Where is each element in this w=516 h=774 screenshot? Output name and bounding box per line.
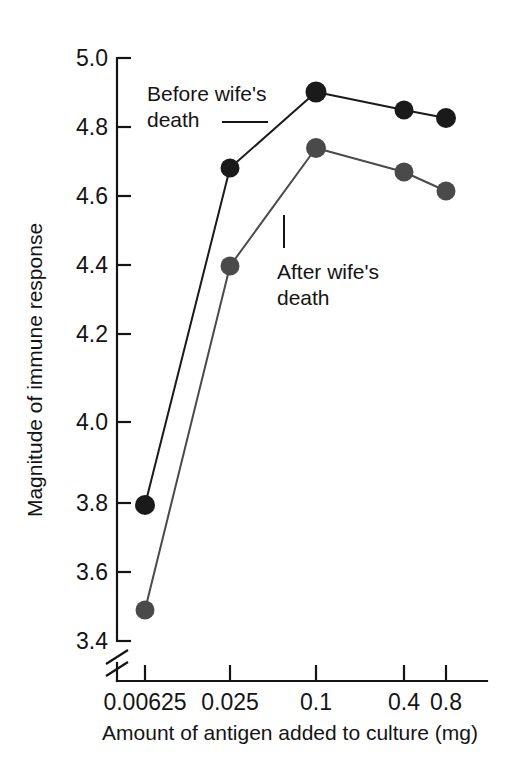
data-point-before-3	[395, 101, 414, 120]
data-point-before-4	[436, 108, 456, 128]
y-tick-label-4-2: 4.2	[76, 321, 108, 347]
immune-response-line-chart: 5.0 4.8 4.6 4.4 4.2 4.0 3.8 3.6 3.4 0.00…	[0, 0, 516, 774]
x-tick-label-2: 0.1	[300, 689, 332, 715]
y-tick-label-4-4: 4.4	[76, 252, 108, 278]
data-point-before-2	[306, 82, 327, 103]
y-tick-label-3-4: 3.4	[76, 628, 108, 654]
x-tick-label-3: 0.4	[388, 689, 420, 715]
x-axis-title: Amount of antigen added to culture (mg)	[102, 721, 478, 744]
y-tick-marks	[117, 58, 131, 641]
y-tick-label-4-8: 4.8	[76, 114, 108, 140]
data-point-after-4	[437, 182, 456, 201]
annotation-after-line2: death	[277, 286, 330, 309]
series-line-after-wifes-death	[145, 148, 446, 610]
series-markers-after-wifes-death	[136, 138, 456, 620]
annotation-after-line1: After wife's	[277, 260, 379, 283]
x-tick-label-4: 0.8	[430, 689, 462, 715]
y-tick-label-3-8: 3.8	[76, 490, 108, 516]
data-point-after-3	[395, 163, 414, 182]
annotation-before-line1: Before wife's	[147, 82, 267, 105]
data-point-after-2	[306, 138, 326, 158]
y-tick-label-5-0: 5.0	[76, 45, 108, 71]
y-axis-title: Magnitude of immune response	[23, 223, 46, 517]
data-point-after-1	[221, 257, 240, 276]
x-tick-label-1: 0.025	[201, 689, 259, 715]
chart-container: 5.0 4.8 4.6 4.4 4.2 4.0 3.8 3.6 3.4 0.00…	[0, 0, 516, 774]
x-tick-marks	[145, 665, 446, 681]
data-point-before-1	[221, 159, 240, 178]
y-tick-label-4-6: 4.6	[76, 183, 108, 209]
y-tick-label-4-0: 4.0	[76, 409, 108, 435]
annotation-before-line2: death	[147, 108, 200, 131]
data-point-before-0	[135, 495, 155, 515]
data-point-after-0	[136, 601, 155, 620]
y-tick-label-3-6: 3.6	[76, 559, 108, 585]
x-tick-label-0: 0.00625	[103, 689, 186, 715]
